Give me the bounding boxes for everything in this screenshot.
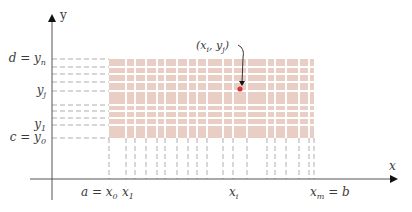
partition-rectangle xyxy=(109,59,314,138)
y-axis-label: y xyxy=(60,9,67,21)
y-axis-arrow-icon xyxy=(48,14,56,22)
x-tick-label: xm = b xyxy=(310,186,350,201)
x-tick-label: a = x0 xyxy=(81,186,118,201)
x-tick-label: x1 xyxy=(122,186,134,201)
sample-point-marker xyxy=(237,86,242,91)
point-label: (xi, yj) xyxy=(196,40,229,54)
x-axis-arrow-icon xyxy=(390,175,398,183)
diagram-canvas: y x d = ynyjy1c = y0 a = x0x1xixm = b (x… xyxy=(0,0,412,212)
y-tick-label: yj xyxy=(37,84,46,99)
diagram-svg xyxy=(0,0,412,212)
y-tick-label: c = y0 xyxy=(10,131,46,146)
partition-region xyxy=(109,59,314,138)
x-tick-label: xi xyxy=(229,186,238,201)
x-axis-label: x xyxy=(389,160,396,172)
y-tick-label: d = yn xyxy=(9,52,46,67)
